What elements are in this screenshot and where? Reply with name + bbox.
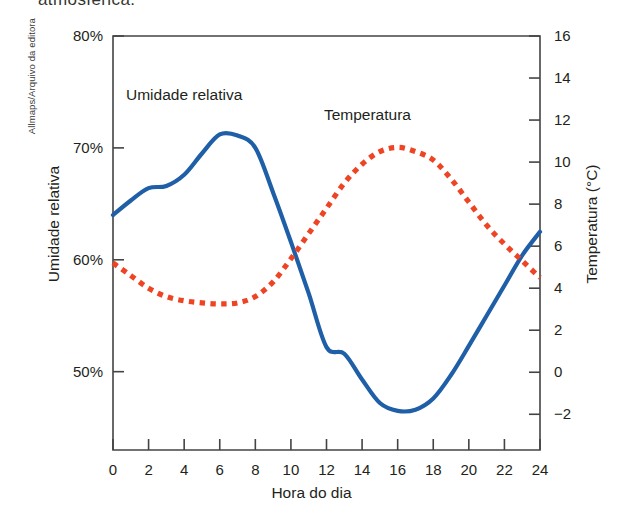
axes-group bbox=[113, 36, 540, 450]
series-line-humidity bbox=[113, 133, 540, 412]
humidity-temperature-figure: atmosférica. Allmaps/Arquivo da editora … bbox=[0, 0, 623, 518]
series-line-temperature bbox=[113, 147, 540, 304]
series-group bbox=[113, 133, 540, 412]
plot-svg bbox=[0, 0, 623, 518]
plot-frame bbox=[113, 36, 540, 450]
